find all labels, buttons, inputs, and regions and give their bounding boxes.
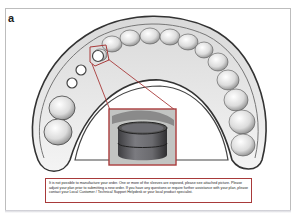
frame-shadow bbox=[5, 210, 291, 213]
sleeve-hole-exposed bbox=[93, 51, 104, 62]
zoom-inset bbox=[109, 109, 176, 165]
manufacturing-error-notice: It is not possible to manufacture your o… bbox=[45, 178, 252, 203]
sleeve-hole bbox=[76, 65, 86, 75]
sleeve-hole bbox=[67, 78, 77, 88]
